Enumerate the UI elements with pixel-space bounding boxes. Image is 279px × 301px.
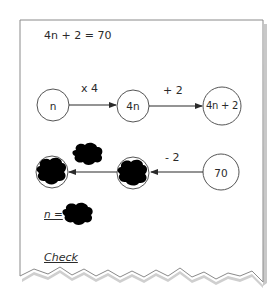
worksheet-figure: 4n + 2 = 70 n 4n 4n + 2 x 4 + 2 70 - 2 n… — [0, 0, 279, 301]
node-4n-label: 4n — [126, 101, 139, 112]
node-70-label: 70 — [214, 168, 227, 179]
operation-plus-2-label: + 2 — [163, 85, 183, 96]
operation-times-4-label: x 4 — [81, 83, 98, 94]
check-label: Check — [44, 252, 78, 263]
equation-text: 4n + 2 = 70 — [44, 30, 111, 41]
blot-answer-node — [37, 158, 66, 185]
operation-minus-2-label: - 2 — [165, 152, 179, 163]
paper-sheet — [20, 20, 263, 282]
node-4n-plus-2-label: 4n + 2 — [206, 101, 238, 111]
answer-label: n = — [44, 209, 63, 220]
worksheet-paper — [0, 0, 279, 301]
node-n-label: n — [50, 101, 57, 112]
